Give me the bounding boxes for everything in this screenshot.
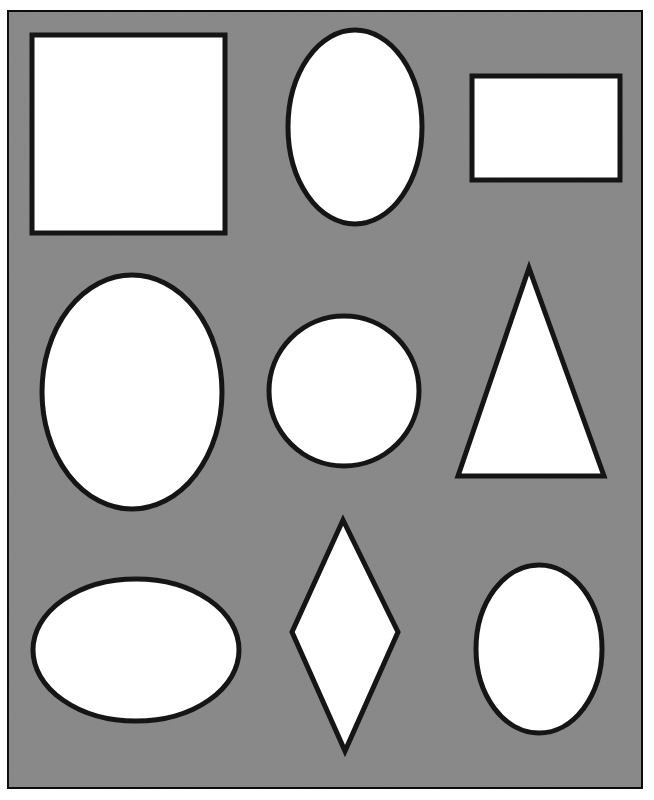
tall-oval-top-shape bbox=[288, 30, 422, 224]
large-oval-shape bbox=[42, 275, 222, 509]
shapes-worksheet bbox=[0, 0, 654, 800]
square-shape bbox=[32, 35, 225, 233]
rectangle-shape bbox=[472, 76, 620, 180]
small-oval-shape bbox=[476, 565, 602, 733]
circle-shape bbox=[269, 316, 419, 466]
wide-oval-shape bbox=[33, 579, 239, 721]
